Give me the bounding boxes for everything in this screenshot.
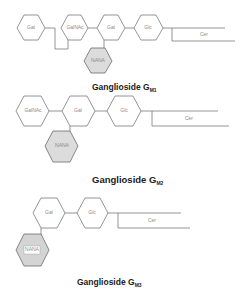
label-nana: NANA [91,57,106,63]
label-gal-2: Gal [107,24,115,30]
label-gal: Gal [45,209,53,215]
ganglioside-gm1: Gal GalNAc Gal Glc Cer NANA Ganglioside … [17,15,235,93]
label-glc: Glc [144,24,152,30]
label-nana: NANA [55,142,70,148]
caption-gm3: Ganglioside GM3 [77,277,142,288]
label-nana: NANA [25,246,40,252]
label-glc: Glc [120,107,128,113]
label-cer: Cer [185,115,193,121]
label-gal: Gal [74,107,82,113]
label-cer: Cer [200,31,208,37]
label-glc: Glc [88,209,96,215]
ganglioside-gm2: GalNAc Gal Glc Cer NANA Ganglioside GM2 [16,96,229,186]
label-galnac: GalNAc [24,107,42,113]
label-galnac: GalNAc [66,24,84,30]
ganglioside-diagrams: Gal GalNAc Gal Glc Cer NANA Ganglioside … [0,0,248,290]
caption-gm1: Ganglioside GM1 [92,82,157,93]
label-gal: Gal [27,24,35,30]
caption-gm2: Ganglioside GM2 [92,174,164,186]
ganglioside-gm3: Gal Glc Cer NANA Ganglioside GM3 [16,198,190,288]
label-cer: Cer [148,217,156,223]
